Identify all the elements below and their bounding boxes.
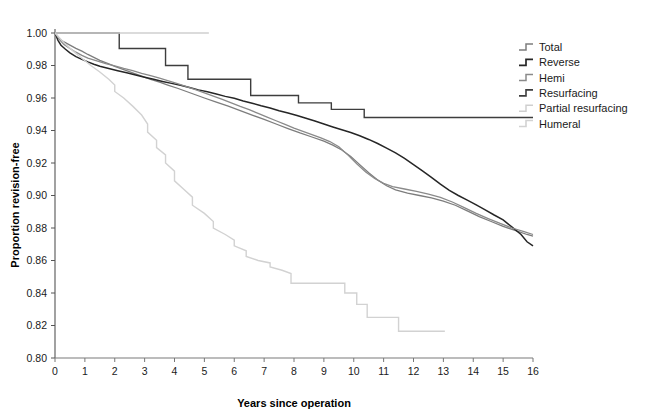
y-tick-label: 0.92	[27, 157, 48, 169]
y-tick-label: 0.86	[27, 254, 48, 266]
plot-area: 0.800.820.840.860.880.900.920.940.960.98…	[27, 27, 539, 377]
chart-canvas: 0.800.820.840.860.880.900.920.940.960.98…	[0, 0, 645, 419]
y-tick-label: 0.80	[27, 352, 48, 364]
legend: TotalReverseHemiResurfacingPartial resur…	[519, 41, 628, 130]
y-tick-label: 0.96	[27, 92, 48, 104]
x-tick-label: 12	[408, 365, 420, 377]
x-tick-label: 1	[82, 365, 88, 377]
y-axis-ticks: 0.800.820.840.860.880.900.920.940.960.98…	[27, 27, 55, 364]
x-tick-label: 11	[378, 365, 389, 377]
legend-label-reverse: Reverse	[539, 56, 580, 68]
y-tick-label: 0.98	[27, 59, 48, 71]
x-tick-label: 14	[467, 365, 479, 377]
x-tick-label: 8	[291, 365, 297, 377]
series-lines	[55, 33, 533, 331]
series-line-hemi	[55, 33, 533, 235]
series-line-humeral	[55, 33, 445, 331]
series-line-reverse	[55, 33, 533, 246]
legend-marker-hemi	[519, 75, 533, 81]
y-tick-label: 0.82	[27, 319, 48, 331]
x-tick-label: 16	[527, 365, 539, 377]
x-tick-label: 13	[438, 365, 450, 377]
x-tick-label: 4	[172, 365, 178, 377]
y-axis-title: Proportion revision-free	[9, 142, 21, 267]
legend-marker-total	[519, 44, 533, 50]
x-axis-title: Years since operation	[237, 397, 351, 409]
legend-marker-reverse	[519, 59, 533, 65]
x-tick-label: 0	[52, 365, 58, 377]
y-tick-label: 1.00	[27, 27, 48, 39]
legend-marker-partial-resurfacing	[519, 105, 533, 111]
legend-marker-humeral	[519, 121, 533, 127]
x-tick-label: 3	[142, 365, 148, 377]
survival-chart: 0.800.820.840.860.880.900.920.940.960.98…	[0, 0, 645, 419]
legend-label-humeral: Humeral	[539, 118, 581, 130]
x-tick-label: 15	[497, 365, 509, 377]
x-tick-label: 9	[321, 365, 327, 377]
legend-label-hemi: Hemi	[539, 72, 565, 84]
x-axis-ticks: 012345678910111213141516	[52, 358, 539, 377]
y-tick-label: 0.94	[27, 124, 48, 136]
y-tick-label: 0.90	[27, 189, 48, 201]
legend-label-total: Total	[539, 41, 562, 53]
legend-label-resurfacing: Resurfacing	[539, 87, 598, 99]
series-line-resurfacing	[55, 33, 533, 118]
x-tick-label: 10	[348, 365, 360, 377]
x-tick-label: 2	[112, 365, 118, 377]
x-tick-label: 6	[231, 365, 237, 377]
legend-marker-resurfacing	[519, 90, 533, 96]
x-tick-label: 7	[261, 365, 267, 377]
y-tick-label: 0.84	[27, 287, 48, 299]
legend-label-partial-resurfacing: Partial resurfacing	[539, 102, 628, 114]
x-tick-label: 5	[201, 365, 207, 377]
y-tick-label: 0.88	[27, 222, 48, 234]
